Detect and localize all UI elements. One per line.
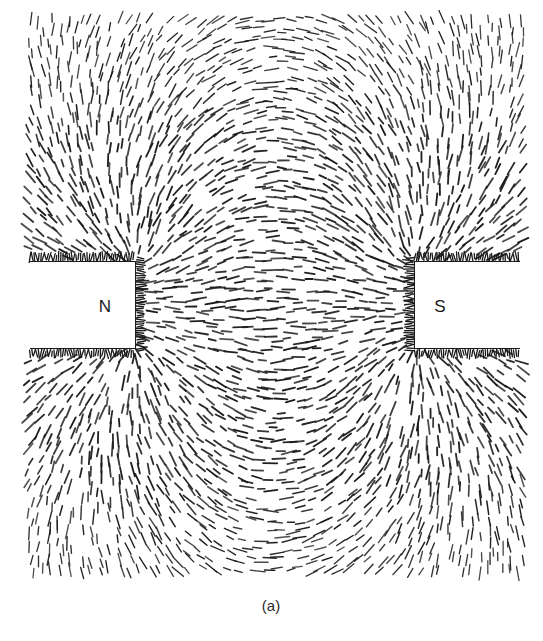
north-pole-magnet [30,262,135,348]
iron-filings-field [0,0,543,641]
south-pole-magnet [415,262,520,348]
figure-caption: (a) [262,597,280,614]
south-pole-label: S [434,297,445,317]
north-pole-label: N [99,297,111,317]
